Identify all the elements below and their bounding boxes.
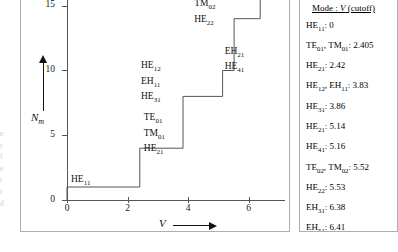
- ann-step4: EH21HE41: [225, 46, 245, 77]
- legend-panel: Mode : V (cutoff) HE11: 0TE01, TM01: 2.4…: [299, 0, 398, 232]
- plot-area: 051015 0246 Nm V HE11TE01TM01HE21HE12EH1…: [21, 0, 289, 231]
- legend-content: Mode : V (cutoff) HE11: 0TE01, TM01: 2.4…: [306, 3, 395, 232]
- ann-step5: TE02TM02HE22: [194, 0, 215, 29]
- ann-step3: HE12EH11HE31: [141, 60, 161, 106]
- clipped-body-text: erfettd: [0, 128, 9, 209]
- legend-row: HE31: 3.86: [306, 101, 395, 115]
- legend-row: TE01, TM01: 2.405: [306, 40, 395, 54]
- legend-row-group: HE11: 0TE01, TM01: 2.405HE21: 2.42HE12, …: [306, 20, 395, 233]
- legend-row: HE21: 2.42: [306, 60, 395, 74]
- legend-row: HE12, EH11: 3.83: [306, 80, 395, 94]
- legend-title: Mode : V (cutoff): [312, 3, 395, 13]
- legend-row: EH51: 6.41: [306, 222, 395, 232]
- legend-row: HE22: 5.53: [306, 182, 395, 196]
- legend-row: TE02, TM02: 5.52: [306, 162, 395, 176]
- ann-he11: HE11: [71, 174, 90, 189]
- legend-row: EH31: 6.38: [306, 202, 395, 216]
- legend-row: HE41: 5.16: [306, 141, 395, 155]
- legend-row: HE21: 5.14: [306, 121, 395, 135]
- legend-row: HE11: 0: [306, 20, 395, 34]
- chart-panel: 051015 0246 Nm V HE11TE01TM01HE21HE12EH1…: [20, 0, 290, 232]
- ann-step2: TE01TM01HE21: [144, 112, 165, 158]
